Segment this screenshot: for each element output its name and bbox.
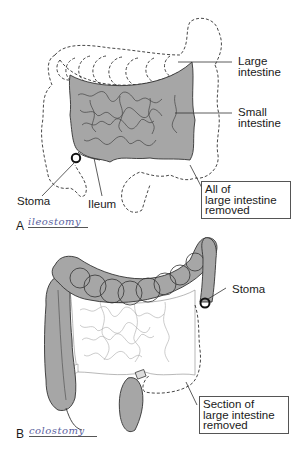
callout-section-removed: Section of large intestine removed xyxy=(199,396,289,434)
label-stoma-b: Stoma xyxy=(232,284,265,295)
rectum xyxy=(119,378,143,432)
panel-b-illustration xyxy=(0,0,303,449)
callout-b-line3: removed xyxy=(203,420,285,431)
panel-b-caption: colostomy xyxy=(29,425,97,437)
callout-b-line1: Section of xyxy=(203,399,285,410)
descending-colon xyxy=(200,238,216,302)
panel-b-letter: B xyxy=(16,427,24,441)
